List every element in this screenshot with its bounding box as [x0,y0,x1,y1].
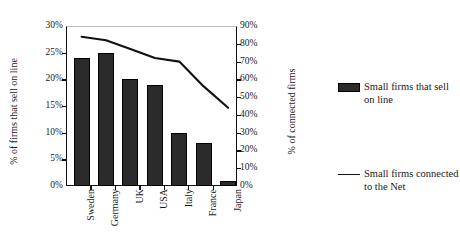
x-label-germany: Germany [110,189,120,226]
line-connected-firms [82,37,229,108]
x-label-usa: USA [159,189,169,209]
y-right-tick: 70% [240,57,257,67]
y-left-tick: 25% [46,48,63,58]
y-left-tick: 30% [46,21,63,31]
legend-line-label: Small firms connected to the Net [364,167,460,193]
x-label-italy: Italy [184,189,194,207]
legend-bars-label: Small firms that sell on line [364,80,460,106]
y-axis-left-title: % of firms that sell on line [8,53,19,171]
x-label-japan: Japan [233,189,243,212]
x-label-uk: UK [135,189,145,203]
legend-item-bars: Small firms that sell on line [338,80,460,106]
y-right-tick: 30% [240,128,257,138]
y-right-tick: 40% [240,110,257,120]
y-axis-right-title: % of connected firms [286,53,297,171]
y-left-tick: 0% [50,181,63,191]
line-series [66,26,237,186]
chart-figure: 30% 25% 20% 15% 10% 5% 0% 90% 80% 70% 60… [0,0,460,249]
y-right-tick: 60% [240,75,257,85]
y-right-tick: 50% [240,92,257,102]
legend-item-line: Small firms connected to the Net [338,167,460,193]
x-label-france: France [208,189,218,216]
y-right-tick: 10% [240,163,257,173]
y-axis-right-ticks: 90% 80% 70% 60% 50% 40% 30% 20% 10% 0% [240,0,280,249]
y-right-tick: 80% [240,39,257,49]
y-right-tick: 90% [240,21,257,31]
y-left-tick: 10% [46,128,63,138]
legend-bar-swatch-icon [338,83,360,92]
legend-line-swatch-icon [338,174,360,175]
chart-legend: Small firms that sell on line Small firm… [338,0,460,249]
y-right-tick: 20% [240,146,257,156]
y-left-tick: 15% [46,101,63,111]
y-left-tick: 20% [46,75,63,85]
x-axis-labels: Sweden Germany UK USA Italy France Japan [66,189,237,249]
x-label-sweden: Sweden [86,189,96,221]
